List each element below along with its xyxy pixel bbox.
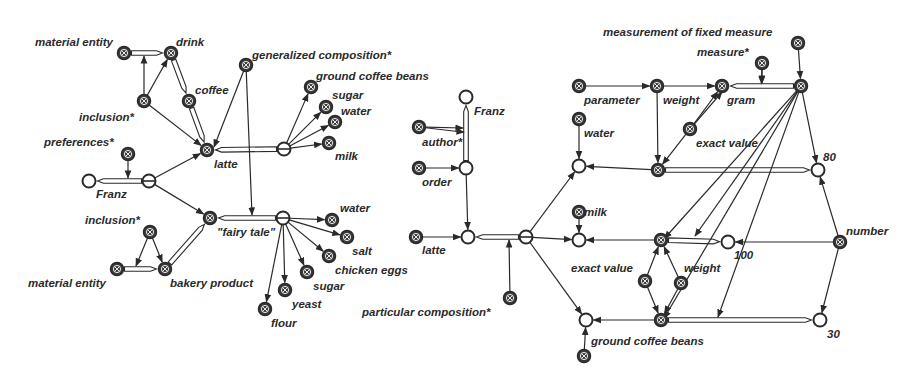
double-arc xyxy=(731,84,794,89)
double-arc xyxy=(125,267,157,272)
arc xyxy=(466,174,468,229)
node-gram-constant-icon xyxy=(716,80,729,93)
node-partcomp-constant-icon xyxy=(504,292,517,305)
node-comp3-variable-icon xyxy=(520,231,533,244)
node-n100-variable-icon xyxy=(722,236,735,249)
arc xyxy=(664,91,796,239)
node-label: exact value xyxy=(696,137,759,149)
node-label: material entity xyxy=(35,36,114,48)
node-label: Franz xyxy=(474,105,505,117)
arc xyxy=(586,166,651,169)
node-label: yeast xyxy=(291,298,323,310)
node-gcb1-constant-icon xyxy=(305,81,318,94)
node-setw-variable-icon xyxy=(573,160,586,173)
node-pref-constant-icon xyxy=(122,148,135,161)
double-arc xyxy=(668,238,719,244)
node-yeast-constant-icon xyxy=(279,284,292,297)
arc xyxy=(802,92,816,162)
node-label: latte xyxy=(422,244,446,256)
node-drink-constant-icon xyxy=(165,47,178,60)
arc xyxy=(822,248,839,312)
arc xyxy=(155,184,204,214)
arc xyxy=(820,177,838,236)
node-label: water xyxy=(341,105,372,117)
node-n30-variable-icon xyxy=(814,314,827,327)
node-incl2-constant-icon xyxy=(144,226,157,239)
double-arc xyxy=(189,107,204,142)
node-eggs-constant-icon xyxy=(323,250,336,263)
node-latte1-constant-icon xyxy=(201,144,214,157)
node-n80-variable-icon xyxy=(812,164,825,177)
arc-to-arc xyxy=(136,238,148,266)
node-label: measurement of fixed measure xyxy=(603,26,773,38)
node-label: weight xyxy=(663,94,701,106)
node-pj2-variable-icon xyxy=(460,162,473,175)
node-water3-constant-icon xyxy=(573,113,586,126)
node-author-constant-icon xyxy=(413,121,426,134)
node-fairy-constant-icon xyxy=(204,212,217,225)
arc xyxy=(798,49,800,78)
node-label: Franz xyxy=(96,188,127,200)
node-param-constant-icon xyxy=(573,80,586,93)
double-arc xyxy=(98,179,142,184)
node-label: exact value xyxy=(571,262,634,274)
node-sugar2-constant-icon xyxy=(301,266,314,279)
node-label: order xyxy=(422,176,452,188)
node-label: parameter xyxy=(583,94,640,106)
node-label: 100 xyxy=(734,249,754,261)
arc xyxy=(152,238,162,262)
node-label: 30 xyxy=(827,328,840,340)
node-me1-constant-icon xyxy=(118,47,131,60)
node-mfm_top-constant-icon xyxy=(792,37,805,50)
node-label: measure* xyxy=(697,46,749,58)
arc-to-arc xyxy=(695,91,797,236)
node-label: author* xyxy=(422,136,463,148)
double-arc xyxy=(477,235,519,240)
node-setm-variable-icon xyxy=(573,234,586,247)
node-label: number xyxy=(846,225,889,237)
node-order-constant-icon xyxy=(413,162,426,175)
node-ev2-constant-icon xyxy=(639,275,652,288)
node-setg-variable-icon xyxy=(580,314,593,327)
arc xyxy=(289,218,324,219)
arc xyxy=(657,92,658,162)
node-label: drink xyxy=(176,36,205,48)
node-water2-constant-icon xyxy=(326,214,339,227)
semantic-network-diagram: material entitydrinkinclusion*coffeegene… xyxy=(0,0,923,386)
double-arc xyxy=(464,106,469,161)
node-qg-constant-icon xyxy=(655,314,668,327)
node-bakery-constant-icon xyxy=(159,263,172,276)
arc xyxy=(283,224,285,282)
node-label: milk xyxy=(584,206,608,218)
node-gencomp-constant-icon xyxy=(240,59,253,72)
node-ev1-constant-icon xyxy=(684,123,697,136)
arc-to-arc xyxy=(718,92,799,317)
arc xyxy=(288,222,323,251)
node-label: preferences* xyxy=(43,136,114,148)
node-salt-constant-icon xyxy=(341,231,354,244)
node-label: ground coffee beans xyxy=(315,70,429,82)
node-label: milk xyxy=(335,150,359,162)
node-me2-constant-icon xyxy=(111,263,124,276)
node-label: water xyxy=(340,202,371,214)
arc xyxy=(155,154,201,178)
node-weight1-constant-icon xyxy=(651,80,664,93)
node-label: 80 xyxy=(823,151,836,163)
arc xyxy=(532,237,571,239)
node-milk1-constant-icon xyxy=(323,137,336,150)
node-mfm-constant-icon xyxy=(795,80,808,93)
node-label: particular composition* xyxy=(361,306,491,318)
node-franz1-variable-icon xyxy=(83,175,96,188)
node-comp2-variable-icon xyxy=(277,212,290,225)
arc xyxy=(147,60,167,96)
node-label: material entity xyxy=(28,277,107,289)
node-label: "fairy tale" xyxy=(217,226,276,238)
double-arc xyxy=(168,224,204,265)
double-arc xyxy=(219,216,276,221)
arc-to-arc xyxy=(246,71,252,215)
node-franz2-variable-icon xyxy=(460,91,473,104)
node-pj1-variable-icon xyxy=(143,175,156,188)
node-qw-constant-icon xyxy=(652,164,665,177)
arc xyxy=(286,224,304,265)
node-label: generalized composition* xyxy=(251,49,392,61)
